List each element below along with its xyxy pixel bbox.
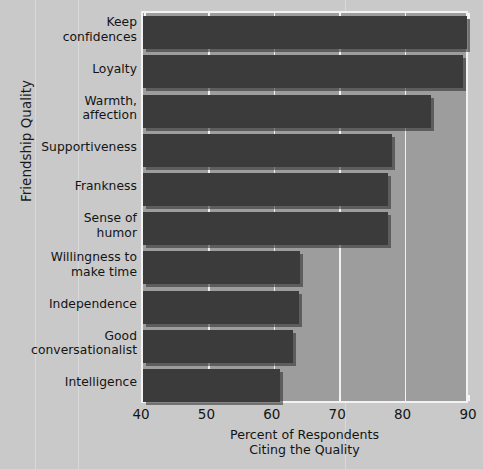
y-tick-label-5: Sense ofhumor bbox=[20, 211, 137, 240]
x-tick-label-60: 60 bbox=[252, 406, 292, 422]
bar-6 bbox=[143, 251, 300, 284]
bar-0 bbox=[143, 16, 467, 49]
y-tick-label-8: Goodconversationalist bbox=[20, 329, 137, 358]
plot-area bbox=[141, 11, 468, 403]
x-tick-label-40: 40 bbox=[121, 406, 161, 422]
y-tick-label-9: Intelligence bbox=[20, 375, 137, 390]
y-tick-label-1: Loyalty bbox=[20, 62, 137, 77]
bar-5 bbox=[143, 212, 388, 245]
chart-figure: Friendship Quality KeepconfidencesLoyalt… bbox=[0, 0, 483, 469]
x-tick-label-70: 70 bbox=[317, 406, 357, 422]
bar-4 bbox=[143, 173, 388, 206]
y-tick-label-4: Frankness bbox=[20, 179, 137, 194]
tick-top-90 bbox=[468, 13, 470, 19]
bar-3 bbox=[143, 134, 392, 167]
y-tick-label-7: Independence bbox=[20, 297, 137, 312]
bar-9 bbox=[143, 369, 280, 402]
x-axis-title-line-1: Citing the Quality bbox=[141, 442, 468, 457]
y-tick-label-6: Willingness tomake time bbox=[20, 250, 137, 279]
bar-1 bbox=[143, 55, 463, 88]
bar-7 bbox=[143, 291, 299, 324]
x-axis-tick-labels: 405060708090 bbox=[0, 406, 483, 426]
x-tick-label-90: 90 bbox=[448, 406, 483, 422]
tick-bottom-80 bbox=[405, 395, 407, 401]
tick-bottom-90 bbox=[468, 395, 470, 401]
y-tick-label-2: Warmth,affection bbox=[20, 94, 137, 123]
bar-8 bbox=[143, 330, 293, 363]
x-axis-title: Percent of RespondentsCiting the Quality bbox=[141, 427, 468, 457]
tick-bottom-70 bbox=[339, 395, 341, 401]
x-tick-label-80: 80 bbox=[383, 406, 423, 422]
bar-2 bbox=[143, 95, 431, 128]
x-axis-title-line-0: Percent of Respondents bbox=[141, 427, 468, 442]
y-tick-label-3: Supportiveness bbox=[20, 140, 137, 155]
y-axis-tick-labels: KeepconfidencesLoyaltyWarmth,affectionSu… bbox=[20, 11, 137, 403]
y-tick-label-0: Keepconfidences bbox=[20, 15, 137, 44]
x-tick-label-50: 50 bbox=[186, 406, 226, 422]
